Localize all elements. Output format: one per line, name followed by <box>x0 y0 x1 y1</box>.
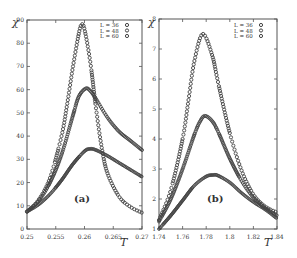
x-tick-label: 1.74 <box>152 233 166 240</box>
y-tick-label: 70 <box>16 62 24 69</box>
panel-a: 0.250.2550.260.2650.27010203040506070809… <box>11 16 149 249</box>
data-point <box>169 190 172 193</box>
data-point <box>183 125 186 128</box>
y-tick-label: 7 <box>152 45 156 52</box>
panel-b-legend: L = 36L = 48L = 60 <box>234 22 263 39</box>
panel-b-label: (b) <box>207 193 223 204</box>
y-tick-label: 50 <box>16 109 24 116</box>
panel-a-label: (a) <box>74 193 90 204</box>
data-point <box>69 80 72 83</box>
data-point <box>196 45 199 48</box>
panel-a-ticks: 0.250.2550.260.2650.27010203040506070809… <box>16 16 149 240</box>
data-point <box>67 95 70 98</box>
data-point <box>66 102 69 105</box>
panel-a-series <box>25 23 143 215</box>
y-tick-label: 3 <box>152 165 156 172</box>
data-point <box>229 136 232 139</box>
data-point <box>170 186 173 189</box>
legend-label: L = 60 <box>234 33 253 39</box>
y-tick-label: 4 <box>152 135 156 142</box>
data-point <box>195 49 198 52</box>
panel-a-xlabel: T <box>120 236 129 249</box>
y-tick-label: 40 <box>16 132 24 139</box>
data-point <box>234 152 237 155</box>
data-point <box>183 129 186 132</box>
y-tick-label: 5 <box>152 105 156 112</box>
data-point <box>190 74 193 77</box>
panel-b: 1.741.761.781.81.821.8412345678 χ T (b) … <box>147 15 284 249</box>
y-tick-label: 20 <box>16 179 24 186</box>
data-point <box>216 77 219 80</box>
data-point <box>191 66 194 69</box>
data-point <box>69 83 72 86</box>
data-point <box>182 133 185 136</box>
y-tick-label: 0 <box>20 225 24 232</box>
legend-marker <box>259 29 262 32</box>
data-point <box>187 98 190 101</box>
y-tick-label: 2 <box>152 195 156 202</box>
panel-a-ylabel: χ <box>11 16 20 29</box>
x-tick-label: 1.8 <box>225 233 235 240</box>
legend-marker <box>125 34 128 37</box>
x-tick-label: 1.76 <box>176 233 190 240</box>
data-point <box>190 78 193 81</box>
legend-marker <box>259 34 262 37</box>
data-point <box>68 87 71 90</box>
data-point <box>86 41 89 44</box>
panel-a-legend: L = 36L = 48L = 60 <box>100 22 129 39</box>
data-point <box>185 110 188 113</box>
data-point <box>60 135 63 138</box>
data-point <box>184 117 187 120</box>
legend-label: L = 60 <box>100 33 119 39</box>
legend-marker <box>125 29 128 32</box>
data-point <box>59 138 62 141</box>
data-point <box>61 131 64 134</box>
data-point <box>88 56 91 59</box>
data-point <box>98 136 101 139</box>
data-point <box>192 63 195 66</box>
data-point <box>167 194 170 197</box>
data-point <box>233 148 236 151</box>
data-point <box>94 107 97 110</box>
data-point <box>89 64 92 67</box>
data-point <box>194 52 197 55</box>
data-point <box>86 45 89 48</box>
data-point <box>99 139 102 142</box>
data-point <box>98 132 101 135</box>
y-tick-label: 6 <box>152 75 156 82</box>
data-point <box>96 115 99 118</box>
figure: 0.250.2550.260.2650.27010203040506070809… <box>0 0 297 258</box>
y-tick-label: 30 <box>16 155 24 162</box>
legend-marker <box>259 23 262 26</box>
data-point <box>97 128 100 131</box>
data-point <box>52 165 55 168</box>
data-point <box>74 50 77 53</box>
data-point <box>186 102 189 105</box>
data-point <box>194 56 197 59</box>
y-tick-label: 1 <box>152 225 156 232</box>
x-tick-label: 0.27 <box>135 233 149 240</box>
data-point <box>65 109 68 112</box>
data-point <box>235 156 238 159</box>
data-point <box>191 70 194 73</box>
data-point <box>65 105 68 108</box>
data-point <box>97 124 100 127</box>
data-point <box>184 121 187 124</box>
data-point <box>96 119 99 122</box>
y-tick-label: 80 <box>16 39 24 46</box>
data-point <box>73 54 76 57</box>
data-point <box>186 106 189 109</box>
panel-b-ylabel: χ <box>147 16 156 29</box>
data-point <box>185 113 188 116</box>
y-tick-label: 60 <box>16 86 24 93</box>
legend-marker <box>125 23 128 26</box>
data-point <box>238 162 241 165</box>
data-point <box>62 124 65 127</box>
data-point <box>89 60 92 63</box>
data-point <box>71 68 74 71</box>
x-tick-label: 0.255 <box>47 233 64 240</box>
data-point <box>61 127 64 130</box>
data-point <box>236 159 239 162</box>
data-point <box>95 111 98 114</box>
data-point <box>100 146 103 149</box>
